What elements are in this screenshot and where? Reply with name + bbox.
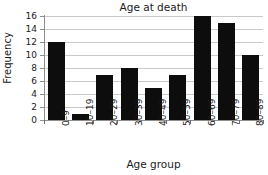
- x-tick-mark: [190, 120, 191, 124]
- x-tick-mark: [263, 120, 264, 124]
- y-axis-line: [44, 15, 45, 121]
- x-tick-mark: [44, 120, 45, 124]
- y-tick-mark: [40, 29, 44, 30]
- y-tick-label: 6: [20, 77, 37, 86]
- x-tick-mark: [93, 120, 94, 124]
- y-tick-label: 14: [20, 25, 37, 34]
- y-tick-label: 0: [20, 116, 37, 125]
- x-tick-mark: [239, 120, 240, 124]
- y-tick-mark: [40, 107, 44, 108]
- y-tick-label: 10: [20, 51, 37, 60]
- y-tick-mark: [40, 68, 44, 69]
- y-axis-tick-labels: 0246810121416: [18, 0, 37, 175]
- y-tick-mark: [40, 16, 44, 17]
- x-axis-label: Age group: [44, 158, 263, 171]
- bar-chart: Age at death Frequency Age group 0246810…: [0, 0, 268, 175]
- bar: [48, 42, 65, 120]
- y-tick-label: 12: [20, 38, 37, 47]
- y-axis-label: Frequency: [2, 17, 14, 99]
- y-tick-mark: [40, 55, 44, 56]
- x-tick-mark: [141, 120, 142, 124]
- x-tick-mark: [214, 120, 215, 124]
- y-tick-label: 2: [20, 103, 37, 112]
- gridline: [44, 16, 263, 17]
- y-tick-mark: [40, 42, 44, 43]
- y-tick-mark: [40, 94, 44, 95]
- y-tick-label: 4: [20, 90, 37, 99]
- chart-title: Age at death: [44, 0, 263, 14]
- y-tick-label: 8: [20, 64, 37, 73]
- x-tick-mark: [117, 120, 118, 124]
- x-tick-mark: [166, 120, 167, 124]
- x-tick-mark: [68, 120, 69, 124]
- y-tick-mark: [40, 81, 44, 82]
- y-tick-label: 16: [20, 12, 37, 21]
